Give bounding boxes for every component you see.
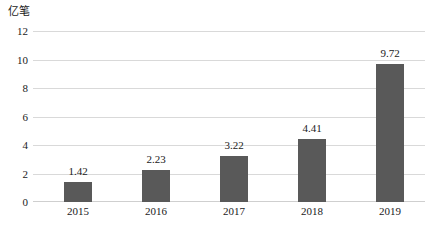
bar[interactable] xyxy=(220,156,248,202)
bar-value-label: 1.42 xyxy=(68,166,87,177)
y-tick-label: 8 xyxy=(0,83,28,94)
bar[interactable] xyxy=(298,139,326,202)
y-axis-unit-label: 亿笔 xyxy=(8,5,30,18)
bar[interactable] xyxy=(64,182,92,202)
bar-value-label: 4.41 xyxy=(302,123,321,134)
x-tick-label-2016: 2016 xyxy=(126,205,186,218)
y-tick-label: 6 xyxy=(0,111,28,122)
plot-area: 1.42 2.23 3.22 4.41 9.72 xyxy=(33,31,425,202)
bar-group: 9.72 xyxy=(375,31,405,202)
x-tick-label-2019: 2019 xyxy=(360,205,420,218)
bar-series: 1.42 2.23 3.22 4.41 9.72 xyxy=(33,31,425,202)
y-tick-label: 0 xyxy=(0,197,28,208)
bar-group: 4.41 xyxy=(297,31,327,202)
bar[interactable] xyxy=(376,64,404,203)
x-axis-tick-labels: 2015 2016 2017 2018 2019 xyxy=(33,205,425,223)
y-tick-label: 2 xyxy=(0,168,28,179)
bar-group: 3.22 xyxy=(219,31,249,202)
bar-group: 1.42 xyxy=(63,31,93,202)
x-tick-label-2015: 2015 xyxy=(48,205,108,218)
bar-chart: 亿笔 12 10 8 6 4 2 0 1.42 2.23 xyxy=(0,0,431,235)
y-tick-label: 4 xyxy=(0,140,28,151)
bar-group: 2.23 xyxy=(141,31,171,202)
bar-value-label: 3.22 xyxy=(224,140,243,151)
bar-value-label: 2.23 xyxy=(146,154,165,165)
x-tick-label-2018: 2018 xyxy=(282,205,342,218)
y-axis-tick-labels: 12 10 8 6 4 2 0 xyxy=(0,31,28,202)
bar[interactable] xyxy=(142,170,170,202)
y-tick-label: 10 xyxy=(0,54,28,65)
y-tick-label: 12 xyxy=(0,26,28,37)
bar-value-label: 9.72 xyxy=(380,48,399,59)
x-tick-label-2017: 2017 xyxy=(204,205,264,218)
